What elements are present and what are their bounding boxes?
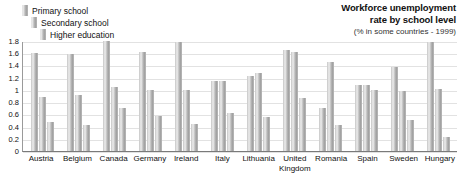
legend-item-secondary-school: Secondary school xyxy=(22,15,242,27)
gridline-0 xyxy=(23,152,457,153)
y-axis-tick-0.4: 0.4 xyxy=(9,124,19,132)
bar-canada-primary-school xyxy=(103,41,110,151)
bar-lithuania-secondary-school xyxy=(255,73,262,151)
bar-lithuania-higher-education xyxy=(263,117,270,151)
bar-belgium-primary-school xyxy=(67,54,74,151)
bar-group-belgium xyxy=(60,42,96,151)
bar-canada-higher-education xyxy=(119,108,126,151)
bar-hungary-primary-school xyxy=(427,42,434,151)
x-axis-label-italy: Italy xyxy=(204,154,240,173)
legend-swatch-higher-education xyxy=(40,29,46,40)
bar-lithuania-primary-school xyxy=(247,76,254,151)
x-axis-label-canada: Canada xyxy=(96,154,132,173)
bar-united-kingdom-primary-school xyxy=(283,50,290,151)
bar-group-germany xyxy=(132,42,168,151)
y-axis-tick-0.8: 0.8 xyxy=(9,99,19,107)
bar-romania-higher-education xyxy=(335,125,342,151)
y-axis-tick-0.2: 0.2 xyxy=(9,136,19,144)
y-axis-tick-0.6: 0.6 xyxy=(9,112,19,120)
x-axis-label-lithuania: Lithuania xyxy=(241,154,277,173)
bar-ireland-primary-school xyxy=(175,42,182,151)
legend-label-higher-education: Higher education xyxy=(50,30,114,40)
bar-hungary-higher-education xyxy=(443,137,450,151)
bar-united-kingdom-secondary-school xyxy=(291,52,298,151)
bar-group-sweden xyxy=(385,42,421,151)
x-axis-label-austria: Austria xyxy=(23,154,59,173)
bar-united-kingdom-higher-education xyxy=(299,98,306,151)
x-axis-label-romania: Romania xyxy=(313,154,349,173)
bar-belgium-secondary-school xyxy=(75,95,82,151)
bar-austria-secondary-school xyxy=(39,97,46,151)
x-axis-label-sweden: Sweden xyxy=(386,154,422,173)
bar-group-italy xyxy=(204,42,240,151)
bar-romania-secondary-school xyxy=(327,62,334,151)
chart-title-block: Workforce unemployment rate by school le… xyxy=(276,2,456,37)
bar-germany-primary-school xyxy=(139,52,146,151)
bar-group-lithuania xyxy=(240,42,276,151)
chart-plot-area xyxy=(22,42,457,152)
y-axis-tick-1.6: 1.6 xyxy=(9,50,19,58)
bar-italy-higher-education xyxy=(227,113,234,151)
y-axis-tick-1.2: 1.2 xyxy=(9,75,19,83)
x-axis-label-united-kingdom: United Kingdom xyxy=(277,154,313,173)
x-axis-label-belgium: Belgium xyxy=(59,154,95,173)
bar-austria-primary-school xyxy=(31,53,38,151)
bar-sweden-secondary-school xyxy=(399,91,406,151)
chart-bar-groups xyxy=(24,42,457,151)
chart-legend: Primary school Secondary school Higher e… xyxy=(22,3,242,39)
bar-group-canada xyxy=(96,42,132,151)
y-axis-tick-0: 0 xyxy=(15,148,19,156)
y-axis-tick-1.8: 1.8 xyxy=(9,38,19,46)
bar-romania-primary-school xyxy=(319,108,326,151)
bar-austria-higher-education xyxy=(47,122,54,151)
bar-italy-secondary-school xyxy=(219,81,226,151)
bar-germany-higher-education xyxy=(155,116,162,151)
bar-germany-secondary-school xyxy=(147,90,154,151)
chart-subtitle: (% in some countries - 1999) xyxy=(276,26,456,37)
bar-spain-primary-school xyxy=(355,85,362,151)
x-axis-label-germany: Germany xyxy=(132,154,168,173)
chart-title: Workforce unemployment rate by school le… xyxy=(276,2,456,25)
bar-sweden-higher-education xyxy=(407,120,414,151)
bar-belgium-higher-education xyxy=(83,125,90,151)
x-axis-labels: AustriaBelgiumCanadaGermanyIrelandItalyL… xyxy=(23,154,458,173)
bar-canada-secondary-school xyxy=(111,87,118,151)
bar-spain-secondary-school xyxy=(363,85,370,151)
bar-hungary-secondary-school xyxy=(435,89,442,151)
y-axis-tick-1.4: 1.4 xyxy=(9,63,19,71)
x-axis-label-hungary: Hungary xyxy=(422,154,458,173)
bar-ireland-secondary-school xyxy=(183,90,190,151)
bar-group-romania xyxy=(313,42,349,151)
x-axis-label-spain: Spain xyxy=(349,154,385,173)
bar-group-ireland xyxy=(168,42,204,151)
bar-sweden-primary-school xyxy=(391,67,398,151)
bar-spain-higher-education xyxy=(371,90,378,151)
bar-ireland-higher-education xyxy=(191,124,198,152)
y-axis-tick-1: 1 xyxy=(15,87,19,95)
bar-group-austria xyxy=(24,42,60,151)
bar-italy-primary-school xyxy=(211,81,218,151)
x-axis-label-ireland: Ireland xyxy=(168,154,204,173)
y-axis-labels: 00.20.40.60.811.21.41.61.8 xyxy=(0,42,20,152)
bar-group-united-kingdom xyxy=(277,42,313,151)
bar-group-spain xyxy=(349,42,385,151)
legend-item-higher-education: Higher education xyxy=(22,27,242,39)
legend-item-primary-school: Primary school xyxy=(22,3,242,15)
bar-group-hungary xyxy=(421,42,457,151)
